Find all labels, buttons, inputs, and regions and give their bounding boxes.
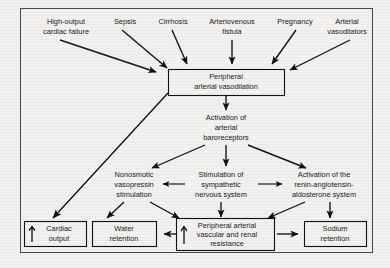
edge-high-output-to-vasodilation: [60, 40, 156, 72]
edge-vasopressin-to-water-retention: [107, 202, 124, 218]
edge-raas-to-peripheral-resistance: [268, 202, 305, 218]
node-stimulation-of-sympathetic-nervous-system: Stimulation of sympathetic nervous syste…: [195, 170, 247, 199]
edge-vasopressin-to-peripheral-resistance: [150, 202, 179, 218]
effector-line-3: nervous system: [195, 190, 247, 199]
outcome-line-3: resistance: [210, 239, 244, 248]
cause-label-arterial-vasodilators: Arterial vasodilators: [327, 17, 367, 36]
outcome-line-1: Sodium: [322, 224, 347, 233]
baroreceptor-line-1: Activation of: [206, 113, 247, 122]
outcome-line-2: retention: [110, 234, 139, 243]
edge-cirrhosis-to-vasodilation: [172, 30, 187, 64]
cause-label-pregnancy: Pregnancy: [277, 17, 313, 26]
cause-line-2: fistula: [222, 27, 242, 36]
node-nonosmotic-vasopressin-stimulation: Nonosmotic vasopressin stimulation: [114, 170, 154, 199]
cause-line-2: cardiac failure: [43, 27, 89, 36]
central-node-line-1: Peripheral: [209, 72, 243, 81]
baroreceptor-line-2: arterial: [215, 123, 238, 132]
effector-line-1: Activation of the: [298, 170, 351, 179]
cause-line-1: Arteriovenous: [209, 17, 255, 26]
outcome-line-1: Peripheral arterial: [198, 221, 257, 230]
cause-label-sepsis: Sepsis: [114, 17, 136, 26]
node-activation-of-arterial-baroreceptors: Activation of arterial baroreceptors: [203, 113, 249, 142]
edge-baroreceptors-to-raas: [248, 145, 306, 168]
effector-line-1: Nonosmotic: [114, 170, 153, 179]
cause-line-1: Cirrhosis: [158, 17, 187, 26]
effector-line-2: vasopressin: [114, 180, 153, 189]
outcome-line-1: Water: [114, 224, 134, 233]
outcome-line-2: retention: [321, 234, 350, 243]
effector-line-2: renin-angiotensin-: [294, 180, 354, 189]
edge-vasodilators-to-vasodilation: [290, 40, 350, 70]
edge-pregnancy-to-vasodilation: [272, 30, 296, 64]
outcome-line-1: Cardiac: [46, 224, 72, 233]
cause-line-1: High-output: [47, 17, 85, 26]
cause-line-1: Sepsis: [114, 17, 136, 26]
effector-line-2: sympathetic: [201, 180, 241, 189]
cause-line-1: Arterial: [335, 17, 359, 26]
effector-line-1: Stimulation of: [199, 170, 245, 179]
cause-label-cirrhosis: Cirrhosis: [158, 17, 187, 26]
outcome-line-2: output: [49, 234, 70, 243]
cause-label-high-output-cardiac-failure: High-output cardiac failure: [43, 17, 89, 36]
cause-line-1: Pregnancy: [277, 17, 313, 26]
cause-line-2: vasodilators: [327, 27, 367, 36]
outcome-line-2: vascular and renal: [197, 230, 258, 239]
edge-vasodilation-to-cardiac-output: [53, 93, 168, 218]
effector-line-3: stimulation: [116, 190, 151, 199]
baroreceptor-line-3: baroreceptors: [203, 133, 249, 142]
cause-label-arteriovenous-fistula: Arteriovenous fistula: [209, 17, 255, 36]
central-node-line-2: arterial vasodilation: [194, 82, 258, 91]
edge-baroreceptors-to-vasopressin: [152, 145, 205, 168]
effector-line-3: aldosterone system: [292, 190, 356, 199]
node-activation-of-renin-angiotensin-aldosterone-system: Activation of the renin-angiotensin- ald…: [292, 170, 356, 199]
diagram-canvas: High-output cardiac failure Sepsis Cirrh…: [0, 0, 390, 268]
